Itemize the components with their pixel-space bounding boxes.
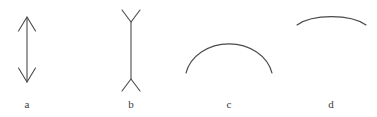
- fins-top-outward-icon: [122, 10, 140, 22]
- figure-b-line-with-outward-fins: [122, 10, 140, 91]
- arc-shallow-icon: [297, 17, 366, 25]
- figure-label-d: d: [321, 99, 341, 110]
- figure-d-shallow-arc: [297, 17, 366, 25]
- figure-label-a: a: [17, 99, 37, 110]
- fins-bottom-outward-icon: [122, 79, 140, 91]
- figure-a-double-headed-arrow: [19, 17, 36, 82]
- figure-panel: a b c d: [0, 0, 377, 117]
- arc-large-icon: [186, 44, 272, 73]
- figure-label-c: c: [219, 99, 239, 110]
- figure-c-large-arc: [186, 44, 272, 73]
- figure-label-b: b: [121, 99, 141, 110]
